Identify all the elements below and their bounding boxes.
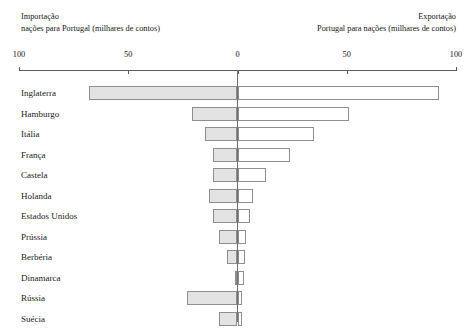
row-label: Rússia xyxy=(21,293,45,304)
row-label: França xyxy=(21,149,46,160)
import-bar xyxy=(187,291,237,305)
export-bar xyxy=(238,312,242,326)
export-bar xyxy=(238,127,314,141)
row-label: Suécia xyxy=(21,313,45,324)
chart-row: Itália xyxy=(0,124,476,145)
chart-row: Suécia xyxy=(0,309,476,329)
chart-row: Berbéria xyxy=(0,247,476,268)
export-bar xyxy=(238,250,246,264)
chart-row: Prússia xyxy=(0,227,476,248)
import-bar xyxy=(213,148,237,162)
chart-row: Rússia xyxy=(0,288,476,309)
row-label: Prússia xyxy=(21,231,47,242)
chart-row: Inglaterra xyxy=(0,83,476,104)
chart-row: Holanda xyxy=(0,186,476,207)
import-bar xyxy=(227,250,238,264)
chart-row: Castela xyxy=(0,165,476,186)
row-label: Castela xyxy=(21,170,48,181)
row-label: Holanda xyxy=(21,190,52,201)
import-bar xyxy=(219,312,238,326)
export-bar xyxy=(238,209,250,223)
export-bar xyxy=(238,86,439,100)
export-bar xyxy=(238,148,290,162)
export-bar xyxy=(238,107,349,121)
bidirectional-bar-chart: Importação nações para Portugal (milhare… xyxy=(0,0,476,329)
import-bar xyxy=(89,86,238,100)
row-label: Berbéria xyxy=(21,252,52,263)
import-bar xyxy=(219,230,238,244)
row-label: Itália xyxy=(21,129,40,140)
export-bar xyxy=(238,189,253,203)
export-bar xyxy=(238,168,266,182)
chart-row: França xyxy=(0,145,476,166)
export-bar xyxy=(238,271,245,285)
import-bar xyxy=(213,209,237,223)
chart-row: Dinamarca xyxy=(0,268,476,289)
import-bar xyxy=(213,168,237,182)
row-label: Inglaterra xyxy=(21,88,56,99)
export-bar xyxy=(238,230,247,244)
bar-rows: InglaterraHamburgoItáliaFrançaCastelaHol… xyxy=(0,0,476,329)
row-label: Estados Unidos xyxy=(21,211,77,222)
import-bar xyxy=(192,107,238,121)
chart-row: Estados Unidos xyxy=(0,206,476,227)
chart-row: Hamburgo xyxy=(0,104,476,125)
row-label: Dinamarca xyxy=(21,272,60,283)
export-bar xyxy=(238,291,242,305)
row-label: Hamburgo xyxy=(21,108,59,119)
import-bar xyxy=(209,189,237,203)
import-bar xyxy=(205,127,238,141)
